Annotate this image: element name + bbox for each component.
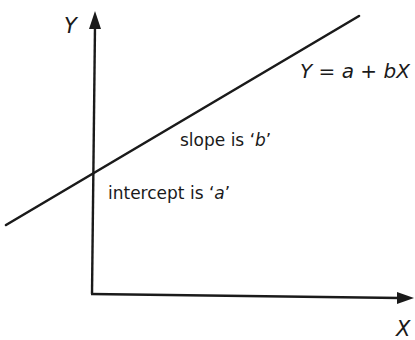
x-axis-arrow-icon <box>397 292 414 304</box>
intercept-close-quote: ’ <box>225 183 230 203</box>
equation-label: Y = a + bX <box>300 59 411 83</box>
slope-var: b <box>255 130 266 150</box>
equation-a: a <box>342 59 354 83</box>
intercept-annotation: intercept is ‘a’ <box>108 183 230 203</box>
x-axis <box>91 294 400 298</box>
intercept-var: a <box>214 183 224 203</box>
y-axis-arrow-icon <box>89 11 101 29</box>
equation-x: X <box>395 59 411 83</box>
slope-prefix: slope is <box>180 130 250 150</box>
y-axis-label: Y <box>64 14 79 38</box>
equation-plus: + <box>354 59 383 83</box>
intercept-prefix: intercept is <box>108 183 209 203</box>
y-axis <box>92 26 95 294</box>
x-axis-label: X <box>395 317 411 340</box>
regression-diagram: Y X Y = a + bX slope is ‘b’ intercept is… <box>0 0 415 340</box>
slope-close-quote: ’ <box>266 130 271 150</box>
equation-b: b <box>383 59 396 83</box>
equation-eq: = <box>312 59 341 83</box>
slope-annotation: slope is ‘b’ <box>180 130 271 150</box>
diagram-svg: Y X Y = a + bX slope is ‘b’ intercept is… <box>0 0 415 340</box>
